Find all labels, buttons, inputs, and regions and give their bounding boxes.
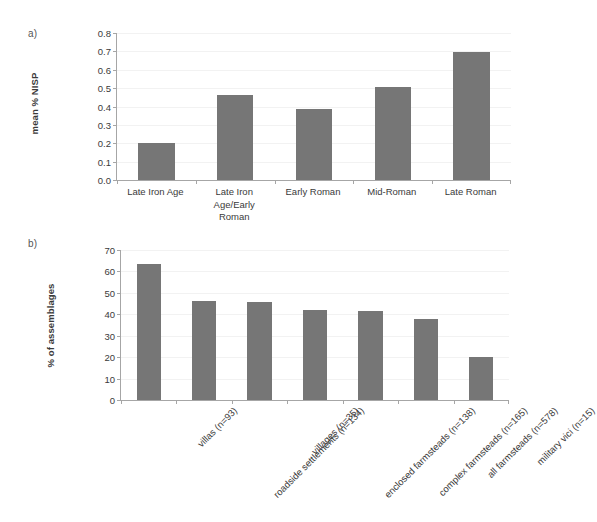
bar-complex-farmsteads[interactable]: [358, 311, 382, 400]
y-tick-label: 0.7: [98, 46, 111, 57]
bar-all-farmsteads[interactable]: [414, 319, 438, 400]
chart-panel-b: % of assemblages 70 60 50 40 30 20 10: [0, 235, 527, 522]
bar-series-b: [121, 250, 509, 400]
bar-roadside-settlements[interactable]: [192, 301, 216, 400]
bar-slot: [275, 33, 354, 180]
bar-slot: [454, 250, 509, 400]
y-tick-label: 50: [104, 287, 115, 298]
y-tick-label: 0.8: [98, 28, 111, 39]
x-tick-label-early-roman: Early Roman: [274, 186, 353, 224]
y-axis-label-b: % of assemblages: [45, 256, 56, 396]
bar-mid-roman[interactable]: [375, 87, 411, 180]
plot-area-b: 70 60 50 40 30 20 10 0: [120, 250, 509, 401]
bar-slot: [343, 250, 398, 400]
chart-panel-a: mean % NISP 0.8 0.7 0.6 0.5 0.4 0.3 0.2: [0, 0, 527, 235]
bar-slot: [196, 33, 275, 180]
bar-villas[interactable]: [137, 264, 161, 400]
x-axis-labels-b: villas (n=93) roadside settlements (n=13…: [120, 405, 508, 520]
y-tick-label: 0.0: [98, 175, 111, 186]
bar-slot: [232, 250, 287, 400]
y-tick-label: 0.5: [98, 83, 111, 94]
bar-slot: [353, 33, 432, 180]
x-tick-label-mid-roman: Mid-Roman: [352, 186, 431, 224]
bar-military-vici[interactable]: [469, 357, 493, 400]
y-tick-label: 0.2: [98, 138, 111, 149]
y-tick-label: 0.1: [98, 156, 111, 167]
y-tick-label: 0.4: [98, 101, 111, 112]
bar-slot: [121, 250, 176, 400]
bar-enclosed-farmsteads[interactable]: [303, 310, 327, 400]
x-tick-label-villas: villas (n=93): [195, 405, 239, 449]
y-axis-label-a: mean % NISP: [29, 44, 40, 164]
bar-late-iron-age[interactable]: [138, 143, 174, 180]
y-tick-label: 0.3: [98, 119, 111, 130]
y-tick-label: 0: [110, 395, 115, 406]
y-tick-label: 60: [104, 266, 115, 277]
x-axis-labels-a: Late Iron Age Late IronAge/EarlyRoman Ea…: [116, 186, 510, 224]
bar-slot: [432, 33, 511, 180]
bar-late-iron-age-early-roman[interactable]: [217, 95, 253, 180]
bar-slot: [398, 250, 453, 400]
bar-late-roman[interactable]: [453, 52, 489, 180]
x-tick-label-late-iron-age: Late Iron Age: [116, 186, 195, 224]
y-tick-label: 30: [104, 330, 115, 341]
y-tick-label: 0.6: [98, 64, 111, 75]
bar-slot: [287, 250, 342, 400]
y-tick-label: 20: [104, 352, 115, 363]
x-tick-label-villages: villages (n=35): [309, 405, 361, 457]
bar-early-roman[interactable]: [296, 109, 332, 180]
x-tick-label-enclosed-farmsteads: enclosed farmsteads (n=138): [382, 405, 477, 500]
bar-series-a: [117, 33, 511, 180]
y-tick-label: 10: [104, 373, 115, 384]
bar-villages[interactable]: [247, 302, 271, 400]
bar-slot: [117, 33, 196, 180]
y-tick-label: 70: [104, 245, 115, 256]
x-tick-label-late-iron-age-early-roman: Late IronAge/EarlyRoman: [195, 186, 274, 224]
plot-area-a: 0.8 0.7 0.6 0.5 0.4 0.3 0.2 0.1 0.0: [116, 33, 511, 181]
bar-slot: [176, 250, 231, 400]
y-tick-label: 40: [104, 309, 115, 320]
x-tick-label-late-roman: Late Roman: [431, 186, 510, 224]
